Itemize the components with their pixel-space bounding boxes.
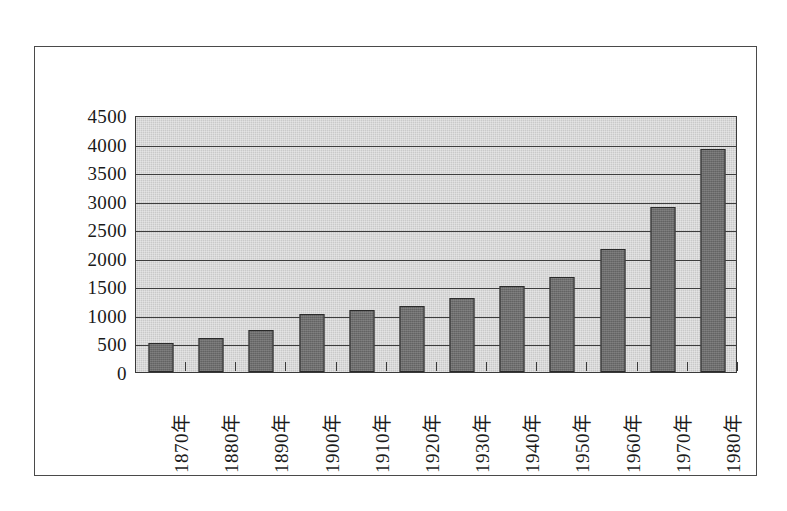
y-tick-label: 3500 — [87, 164, 127, 183]
y-tick-label: 4500 — [87, 107, 127, 126]
x-tick-label: 1870年 — [171, 377, 193, 473]
x-tick-label: 1890年 — [271, 377, 293, 473]
bar-slot — [287, 117, 337, 372]
bar[interactable] — [249, 330, 274, 372]
bar[interactable] — [550, 277, 575, 372]
y-tick-label: 3000 — [87, 192, 127, 211]
y-tick-label: 0 — [117, 364, 127, 383]
bar[interactable] — [349, 310, 374, 372]
y-tick-label: 4000 — [87, 135, 127, 154]
bar[interactable] — [399, 306, 424, 372]
y-tick-label: 2000 — [87, 249, 127, 268]
x-tick-label: 1930年 — [472, 377, 494, 473]
bar[interactable] — [500, 286, 525, 372]
bar-slot — [537, 117, 587, 372]
x-tick-label: 1940年 — [522, 377, 544, 473]
x-tick-label: 1980年 — [723, 377, 745, 473]
y-tick-label: 500 — [97, 335, 127, 354]
x-tick-label: 1970年 — [673, 377, 695, 473]
bar-slot — [337, 117, 387, 372]
y-tick-label: 1500 — [87, 278, 127, 297]
bar-slot — [437, 117, 487, 372]
bar-slot — [136, 117, 186, 372]
bars-layer — [136, 117, 736, 372]
bar[interactable] — [149, 343, 174, 372]
bar-slot — [387, 117, 437, 372]
bar[interactable] — [600, 249, 625, 372]
bar[interactable] — [450, 298, 475, 372]
x-tick-label: 1880年 — [221, 377, 243, 473]
x-axis: 1870年1880年1890年1900年1910年1920年1930年1940年… — [135, 377, 737, 473]
bar[interactable] — [299, 314, 324, 372]
bar-slot — [688, 117, 738, 372]
x-tick-label: 1960年 — [623, 377, 645, 473]
bar[interactable] — [199, 338, 224, 372]
bar-slot — [487, 117, 537, 372]
bar-slot — [638, 117, 688, 372]
bar-slot — [588, 117, 638, 372]
x-tick-label: 1920年 — [422, 377, 444, 473]
y-tick-label: 1000 — [87, 306, 127, 325]
bar-chart: 050010001500200025003000350040004500 187… — [35, 47, 758, 477]
bar-slot — [236, 117, 286, 372]
y-axis: 050010001500200025003000350040004500 — [59, 105, 127, 363]
x-tick-label: 1950年 — [572, 377, 594, 473]
x-tick-label: 1900年 — [322, 377, 344, 473]
bar[interactable] — [650, 207, 675, 372]
bar-slot — [186, 117, 236, 372]
x-tick-label: 1910年 — [372, 377, 394, 473]
bar[interactable] — [700, 149, 725, 372]
figure-frame: 050010001500200025003000350040004500 187… — [34, 46, 757, 476]
x-tick-mark — [737, 362, 738, 371]
plot-area — [135, 116, 737, 373]
y-tick-label: 2500 — [87, 221, 127, 240]
